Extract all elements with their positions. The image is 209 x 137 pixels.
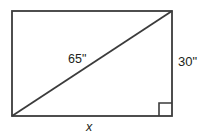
height-length-label: 30": [178, 55, 197, 68]
base-length-label: x: [86, 121, 92, 134]
right-angle-marker-icon: [159, 103, 172, 116]
geometry-figure: 65" 30" x: [0, 0, 209, 137]
diagonal-line: [12, 11, 172, 116]
diagonal-length-label: 65": [68, 53, 86, 66]
